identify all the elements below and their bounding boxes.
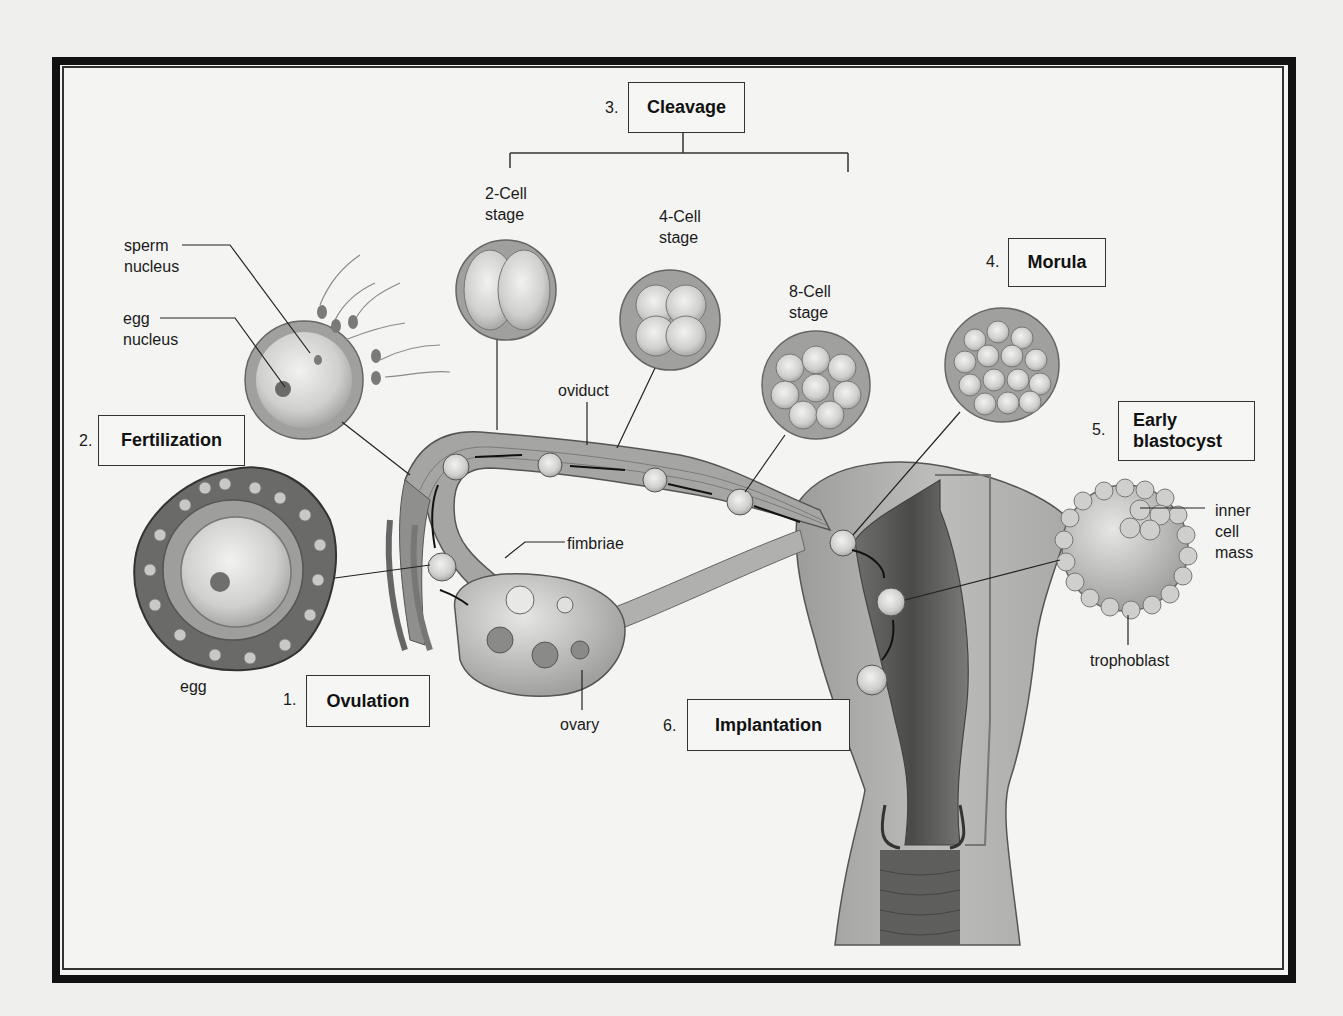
step-label-cleavage: Cleavage <box>628 82 745 133</box>
step-label-implantation: Implantation <box>687 699 850 751</box>
step-label-morula: Morula <box>1008 238 1106 287</box>
step-label-early-blastocyst: Early blastocyst <box>1118 401 1255 461</box>
trophoblast-label: trophoblast <box>1090 650 1169 671</box>
step-number-fertilization: 2. <box>79 432 92 450</box>
step-number-morula: 4. <box>986 253 999 271</box>
fimbriae-label: fimbriae <box>567 533 624 554</box>
egg-illustration <box>134 467 430 670</box>
illustration <box>0 0 1343 1016</box>
two-cell-stage-label: 2-Cell stage <box>485 183 527 225</box>
step-number-early-blastocyst: 5. <box>1092 421 1105 439</box>
egg-label: egg <box>180 676 207 697</box>
egg-nucleus-label: egg nucleus <box>123 308 178 350</box>
ovary <box>455 574 625 696</box>
oviduct-label: oviduct <box>558 380 609 401</box>
step-label-early-blastocyst-line2: blastocyst <box>1133 431 1222 452</box>
four-cell-stage-illustration <box>617 270 720 448</box>
sperm-nucleus-label: sperm nucleus <box>124 235 179 277</box>
two-cell-stage-illustration <box>456 240 556 430</box>
eight-cell-stage-label: 8-Cell stage <box>789 281 831 323</box>
cleavage-bracket <box>510 133 848 172</box>
inner-cell-mass-label: inner cell mass <box>1215 500 1253 563</box>
ovary-label: ovary <box>560 714 599 735</box>
step-label-early-blastocyst-line1: Early <box>1133 410 1177 431</box>
fertilized-egg-illustration <box>245 255 450 475</box>
step-number-implantation: 6. <box>663 717 676 735</box>
step-number-ovulation: 1. <box>283 691 296 709</box>
step-number-cleavage: 3. <box>605 99 618 117</box>
step-label-ovulation: Ovulation <box>306 675 430 727</box>
four-cell-stage-label: 4-Cell stage <box>659 206 701 248</box>
step-label-fertilization: Fertilization <box>98 415 245 466</box>
